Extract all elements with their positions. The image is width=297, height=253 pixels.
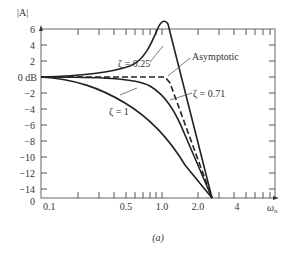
label-zeta-0.71: ζ = 0.71 (193, 88, 225, 100)
y-tick-label: −6 (24, 120, 35, 131)
x-axis-title: ωn (267, 202, 278, 215)
x-axis-arrow-icon (273, 196, 279, 200)
y-tick-label: −10 (19, 152, 35, 163)
plot-frame (41, 29, 275, 198)
bode-magnitude-chart: |A| 6 4 2 0 dB −2 −4 −6 −8 −10 −12 −14 0… (0, 0, 297, 253)
y-axis-arrow-icon (39, 25, 43, 31)
y-tick-label: −12 (19, 168, 35, 179)
leader-line (170, 93, 192, 100)
x-ticks (78, 29, 270, 198)
label-zeta-1: ζ = 1 (109, 106, 129, 118)
leader-line (150, 46, 163, 62)
leader-line (168, 58, 190, 76)
y-tick-label: 0 dB (18, 72, 38, 83)
x-tick-label: 2.0 (192, 201, 205, 212)
label-zeta-0.25: ζ = 0.25 (118, 58, 150, 70)
y-tick-label: −2 (24, 88, 35, 99)
y-ticks (41, 45, 275, 189)
label-asymptotic: Asymptotic (192, 51, 239, 62)
y-origin-label: 0 (30, 196, 35, 207)
x-tick-label: 0.1 (43, 201, 56, 212)
y-tick-label: 2 (30, 56, 35, 67)
y-tick-label: −4 (24, 104, 35, 115)
y-tick-label: −8 (24, 136, 35, 147)
y-axis-title: |A| (17, 7, 28, 18)
y-tick-label: −14 (19, 184, 35, 195)
y-tick-label: 4 (30, 40, 35, 51)
x-tick-label: 0.5 (120, 201, 133, 212)
figure-caption: (a) (152, 232, 164, 244)
x-tick-label: 4 (235, 201, 240, 212)
y-tick-label: 6 (30, 24, 35, 35)
x-tick-label: 1.0 (156, 201, 169, 212)
leader-line (120, 88, 137, 95)
